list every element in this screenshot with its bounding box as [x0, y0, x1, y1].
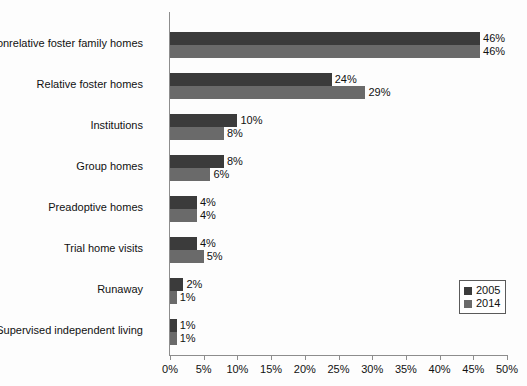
bar-2014 [170, 86, 365, 99]
legend-item-2014: 2014 [464, 297, 500, 310]
bar-2005 [170, 278, 183, 291]
x-axis-tick [440, 355, 441, 360]
category-label: Preadoptive homes [0, 201, 143, 214]
chart-category-row: Trial home visits4%5% [170, 235, 507, 276]
bar-value-label: 10% [237, 114, 262, 127]
legend-label-2014: 2014 [476, 297, 500, 310]
x-axis-tick [204, 355, 205, 360]
bar-2014 [170, 168, 210, 181]
category-label: Nonrelative foster family homes [0, 37, 143, 50]
bar-2005 [170, 155, 224, 168]
bar-2014 [170, 45, 480, 58]
bar-2014 [170, 332, 177, 345]
x-axis-tick-label: 50% [496, 363, 518, 376]
category-label: Group homes [0, 160, 143, 173]
category-label: Trial home visits [0, 242, 143, 255]
x-axis-tick-label: 0% [162, 363, 178, 376]
x-axis-tick [271, 355, 272, 360]
chart-category-row: Institutions10%8% [170, 112, 507, 153]
x-axis-tick [305, 355, 306, 360]
bar-2005 [170, 73, 332, 86]
bar-value-label: 46% [480, 45, 505, 58]
bar-value-label: 8% [224, 155, 243, 168]
bar-2014 [170, 209, 197, 222]
x-axis-tick-label: 20% [294, 363, 316, 376]
bar-value-label: 1% [177, 319, 196, 332]
bar-2005 [170, 32, 480, 45]
x-axis-tick-label: 40% [429, 363, 451, 376]
bar-value-label: 4% [197, 196, 216, 209]
legend-item-2005: 2005 [464, 284, 500, 297]
x-axis-tick [406, 355, 407, 360]
category-label: Institutions [0, 119, 143, 132]
bar-2005 [170, 319, 177, 332]
x-axis-tick [237, 355, 238, 360]
bar-value-label: 24% [332, 73, 357, 86]
x-axis-tick [372, 355, 373, 360]
chart-category-row: Nonrelative foster family homes46%46% [170, 30, 507, 71]
bar-value-label: 4% [197, 209, 216, 222]
legend-swatch-icon-2014 [464, 300, 472, 308]
legend-swatch-icon-2005 [464, 287, 472, 295]
x-axis-tick-label: 45% [462, 363, 484, 376]
x-axis-tick [339, 355, 340, 360]
bar-value-label: 46% [480, 32, 505, 45]
chart-category-row: Supervised independent living1%1% [170, 317, 507, 358]
bar-value-label: 29% [365, 86, 390, 99]
chart-category-row: Preadoptive homes4%4% [170, 194, 507, 235]
bar-value-label: 1% [177, 291, 196, 304]
x-axis-tick-label: 30% [361, 363, 383, 376]
bar-value-label: 8% [224, 127, 243, 140]
x-axis-tick-label: 15% [260, 363, 282, 376]
bar-value-label: 5% [204, 250, 223, 263]
x-axis-tick [473, 355, 474, 360]
chart-category-row: Group homes8%6% [170, 153, 507, 194]
bar-value-label: 1% [177, 332, 196, 345]
x-axis-tick-label: 10% [226, 363, 248, 376]
bar-2014 [170, 127, 224, 140]
plot-area: Nonrelative foster family homes46%46%Rel… [170, 12, 507, 355]
x-axis-tick-label: 25% [327, 363, 349, 376]
x-axis-tick-label: 35% [395, 363, 417, 376]
bar-2014 [170, 291, 177, 304]
chart-category-row: Relative foster homes24%29% [170, 71, 507, 112]
category-label: Runaway [0, 283, 143, 296]
bar-value-label: 2% [183, 278, 202, 291]
bar-value-label: 6% [210, 168, 229, 181]
bar-2005 [170, 196, 197, 209]
category-label: Relative foster homes [0, 78, 143, 91]
chart-category-row: Runaway2%1% [170, 276, 507, 317]
bar-value-label: 4% [197, 237, 216, 250]
x-axis-tick-label: 5% [196, 363, 212, 376]
x-axis-tick [170, 355, 171, 360]
bar-2014 [170, 250, 204, 263]
x-axis-tick [507, 355, 508, 360]
chart-legend: 2005 2014 [459, 280, 506, 314]
bar-2005 [170, 114, 237, 127]
legend-label-2005: 2005 [476, 284, 500, 297]
bar-2005 [170, 237, 197, 250]
category-label: Supervised independent living [0, 324, 143, 337]
bar-chart: Nonrelative foster family homes46%46%Rel… [0, 0, 527, 386]
